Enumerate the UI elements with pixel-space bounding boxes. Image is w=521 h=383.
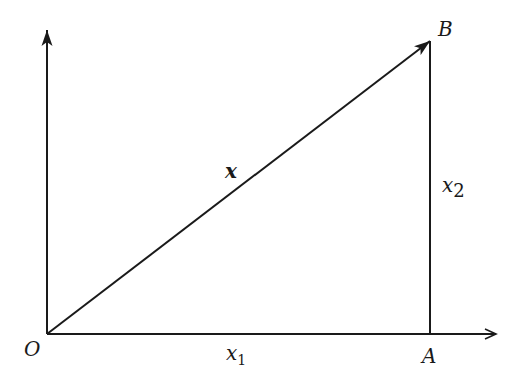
point-b-label: B (437, 17, 453, 41)
component-x2-base: x (442, 173, 453, 197)
component-x1-label: x1 (226, 341, 246, 368)
origin-label: O (24, 337, 40, 361)
vector-x-label: x (224, 159, 238, 183)
component-x2-label: x2 (442, 173, 465, 201)
vector-x-arrow (47, 41, 430, 334)
vector-diagram: O A B x x1 x2 (0, 0, 521, 383)
point-a-label: A (420, 344, 436, 368)
component-x2-subscript: 2 (453, 180, 464, 201)
component-x1-base: x (226, 341, 237, 365)
component-x1-subscript: 1 (237, 352, 246, 368)
